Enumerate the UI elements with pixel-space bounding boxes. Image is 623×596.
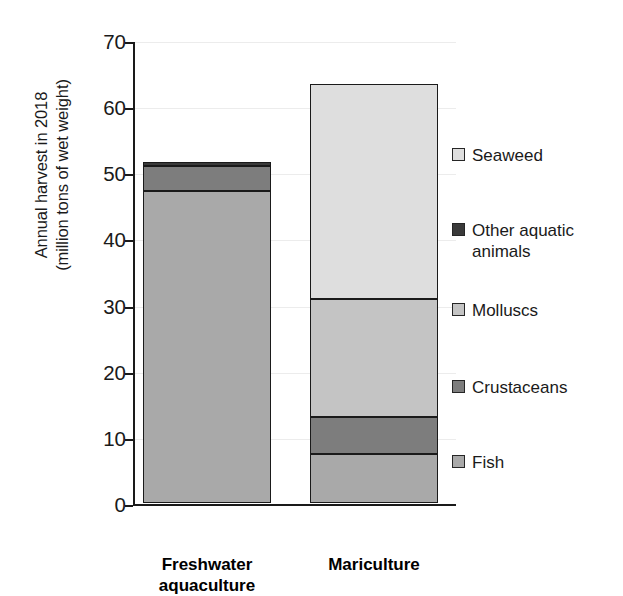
bar-mariculture[interactable] — [310, 84, 438, 503]
y-tick-label-10: 10 — [103, 429, 126, 449]
bar-segment-seaweed[interactable] — [310, 84, 438, 299]
y-tick-label-30: 30 — [103, 297, 126, 317]
legend-swatch-icon — [452, 148, 465, 161]
y-axis-tick-40 — [125, 240, 133, 242]
y-axis-tick-labels: 010203040506070 — [78, 42, 126, 506]
legend-item-fish[interactable]: Fish — [452, 452, 504, 473]
bar-segment-molluscs[interactable] — [310, 299, 438, 417]
legend-label: Crustaceans — [472, 377, 567, 398]
y-axis-tick-60 — [125, 108, 133, 110]
y-tick-label-20: 20 — [103, 363, 126, 383]
y-tick-label-40: 40 — [103, 230, 126, 250]
y-axis-tick-70 — [125, 42, 133, 44]
y-axis-title-text: Annual harvest in 2018 (million tons of … — [31, 79, 73, 271]
legend-item-seaweed[interactable]: Seaweed — [452, 145, 543, 166]
x-axis-label-mariculture: Mariculture — [292, 554, 456, 575]
legend-item-molluscs[interactable]: Molluscs — [452, 300, 538, 321]
y-axis-tick-0 — [125, 505, 133, 507]
legend-item-other-aquatic-animals[interactable]: Other aquatic animals — [452, 220, 574, 262]
y-tick-label-50: 50 — [103, 164, 126, 184]
y-axis-tick-20 — [125, 373, 133, 375]
bar-segment-fish[interactable] — [310, 454, 438, 503]
bar-segment-other-aquatic-animals[interactable] — [143, 162, 271, 166]
y-axis-tick-30 — [125, 307, 133, 309]
legend-swatch-icon — [452, 303, 465, 316]
y-tick-label-70: 70 — [103, 32, 126, 52]
legend-label: Fish — [472, 452, 504, 473]
y-axis-tick-10 — [125, 439, 133, 441]
legend-swatch-icon — [452, 223, 465, 236]
x-axis-line — [133, 504, 456, 506]
y-axis-title: Annual harvest in 2018 (million tons of … — [32, 25, 72, 325]
legend-label: Molluscs — [472, 300, 538, 321]
bar-freshwater-aquaculture[interactable] — [143, 162, 271, 503]
bar-segment-crustaceans[interactable] — [310, 417, 438, 454]
y-axis-tick-50 — [125, 174, 133, 176]
legend-swatch-icon — [452, 380, 465, 393]
legend-swatch-icon — [452, 455, 465, 468]
bar-segment-crustaceans[interactable] — [143, 166, 271, 191]
legend-label: Other aquatic animals — [472, 220, 574, 262]
legend-item-crustaceans[interactable]: Crustaceans — [452, 377, 567, 398]
x-axis-label-freshwater-aquaculture: Freshwater aquaculture — [125, 554, 289, 596]
y-tick-label-60: 60 — [103, 98, 126, 118]
plot-area: Freshwater aquacultureMariculture — [133, 42, 455, 505]
y-axis-line — [133, 42, 135, 506]
gridline-70 — [135, 42, 456, 43]
legend-label: Seaweed — [472, 145, 543, 166]
chart-legend: SeaweedOther aquatic animalsMolluscsCrus… — [452, 42, 623, 506]
bar-segment-fish[interactable] — [143, 191, 271, 503]
